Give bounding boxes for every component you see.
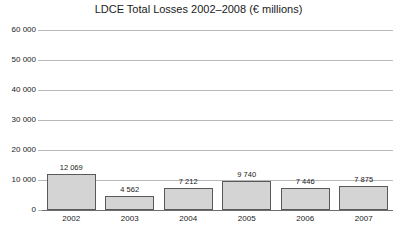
y-axis-tick-label: 20 000 (0, 146, 36, 154)
bar[interactable] (105, 196, 154, 210)
bar-value-label: 12 069 (60, 164, 83, 172)
x-axis-tick-labels: 200220032004200520062007 (42, 214, 393, 228)
x-axis-tick-label: 2002 (42, 214, 101, 224)
bar-group[interactable]: 7 446 (281, 30, 330, 210)
bar-value-label: 7 875 (354, 176, 373, 184)
y-axis-tick-label: 0 (0, 206, 36, 214)
x-axis-tick-label: 2005 (218, 214, 277, 224)
bar-group[interactable]: 9 740 (222, 30, 271, 210)
x-axis-tick-label: 2006 (276, 214, 335, 224)
bar-group[interactable]: 4 562 (105, 30, 154, 210)
bar[interactable] (281, 188, 330, 210)
y-axis-tick-labels: 010 00020 00030 00040 00050 00060 000 (0, 30, 36, 210)
y-axis-tick-label: 10 000 (0, 176, 36, 184)
bar-group[interactable]: 7 212 (164, 30, 213, 210)
x-axis-tick-label: 2004 (159, 214, 218, 224)
bar[interactable] (164, 188, 213, 210)
y-axis-tick-label: 60 000 (0, 26, 36, 34)
bar-chart: LDCE Total Losses 2002–2008 (€ millions)… (0, 0, 397, 238)
bar-group[interactable]: 12 069 (47, 30, 96, 210)
x-axis-tick-label: 2003 (101, 214, 160, 224)
bar[interactable] (222, 181, 271, 210)
bar-value-label: 7 446 (296, 178, 315, 186)
y-axis-tick-label: 40 000 (0, 86, 36, 94)
gridline (42, 210, 393, 211)
chart-title: LDCE Total Losses 2002–2008 (€ millions) (0, 3, 397, 16)
bar-value-label: 4 562 (120, 186, 139, 194)
bar-value-label: 9 740 (237, 171, 256, 179)
bar[interactable] (47, 174, 96, 210)
x-axis-tick-label: 2007 (335, 214, 394, 224)
bar[interactable] (339, 186, 388, 210)
y-axis-tick-label: 30 000 (0, 116, 36, 124)
bar-value-label: 7 212 (179, 178, 198, 186)
y-axis-tick-label: 50 000 (0, 56, 36, 64)
plot-area: 12 0694 5627 2129 7407 4467 875 (42, 30, 393, 210)
bars-layer: 12 0694 5627 2129 7407 4467 875 (42, 30, 393, 210)
bar-group[interactable]: 7 875 (339, 30, 388, 210)
